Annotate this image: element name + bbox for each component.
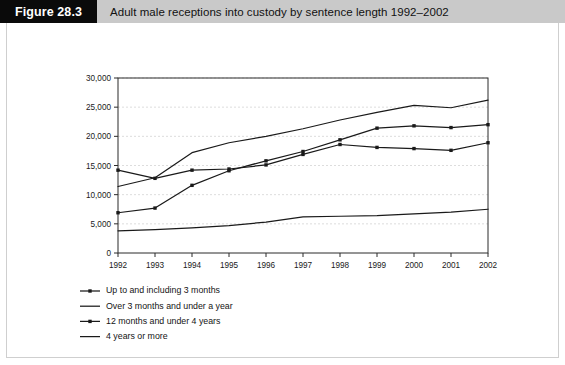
series-marker-2 <box>153 206 156 209</box>
series-marker-0 <box>412 147 415 150</box>
series-marker-0 <box>338 143 341 146</box>
series-marker-0 <box>190 168 193 171</box>
x-tick-label: 1998 <box>331 261 350 270</box>
x-tick-label: 2001 <box>442 261 461 270</box>
legend-swatch-marker-2 <box>88 320 91 323</box>
x-tick-label: 2000 <box>405 261 424 270</box>
series-marker-0 <box>301 153 304 156</box>
figure-container: Figure 28.3 Adult male receptions into c… <box>0 0 565 365</box>
series-marker-2 <box>116 211 119 214</box>
series-marker-2 <box>190 184 193 187</box>
series-marker-0 <box>375 146 378 149</box>
plot-wrapper: 05,00010,00015,00020,00025,00030,000 199… <box>0 0 565 365</box>
series-marker-2 <box>449 126 452 129</box>
x-tick-label: 1999 <box>368 261 387 270</box>
series-marker-0 <box>486 141 489 144</box>
series-line-1 <box>118 100 488 186</box>
y-tick-label: 15,000 <box>86 162 111 171</box>
series-marker-2 <box>412 124 415 127</box>
y-tick-label: 25,000 <box>86 103 111 112</box>
legend-swatch-marker-0 <box>88 289 91 292</box>
y-tick-label: 10,000 <box>86 191 111 200</box>
x-tick-label: 1997 <box>294 261 313 270</box>
chart-legend: Up to and including 3 monthsOver 3 month… <box>80 285 233 341</box>
series-marker-2 <box>227 169 230 172</box>
series-line-2 <box>118 125 488 213</box>
series-marker-2 <box>301 150 304 153</box>
y-tick-label: 0 <box>106 249 111 258</box>
series-marker-0 <box>116 168 119 171</box>
y-tick-label: 5,000 <box>91 220 112 229</box>
y-tick-label: 20,000 <box>86 132 111 141</box>
x-tick-label: 1995 <box>220 261 239 270</box>
legend-label-1: Over 3 months and under a year <box>106 301 233 311</box>
x-tick-label: 1992 <box>109 261 128 270</box>
x-axis-ticks-group: 1992199319941995199619971998199920002001… <box>109 253 498 270</box>
series-line-0 <box>118 143 488 179</box>
series-marker-2 <box>375 126 378 129</box>
series-marker-2 <box>338 138 341 141</box>
y-tick-label: 30,000 <box>86 74 111 83</box>
series-marker-2 <box>264 159 267 162</box>
series-marker-2 <box>486 123 489 126</box>
legend-label-2: 12 months and under 4 years <box>106 316 221 326</box>
x-tick-label: 1994 <box>183 261 202 270</box>
line-chart: 05,00010,00015,00020,00025,00030,000 199… <box>0 0 565 365</box>
series-marker-0 <box>449 149 452 152</box>
x-tick-label: 1996 <box>257 261 276 270</box>
legend-label-3: 4 years or more <box>106 331 168 341</box>
series-marker-0 <box>264 163 267 166</box>
y-axis-ticks-group: 05,00010,00015,00020,00025,00030,000 <box>86 74 118 258</box>
series-line-3 <box>118 209 488 231</box>
x-tick-label: 2002 <box>479 261 498 270</box>
x-tick-label: 1993 <box>146 261 165 270</box>
legend-label-0: Up to and including 3 months <box>106 285 221 295</box>
